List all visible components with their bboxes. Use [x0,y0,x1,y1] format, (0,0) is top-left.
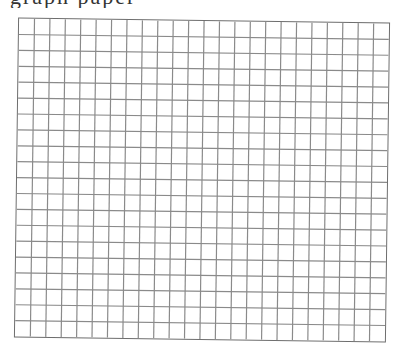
graph-paper [14,18,390,343]
grid [14,18,390,343]
clipped-title: graph paper [0,0,408,8]
grid-lines [15,19,389,342]
title-text: graph paper [10,0,136,8]
